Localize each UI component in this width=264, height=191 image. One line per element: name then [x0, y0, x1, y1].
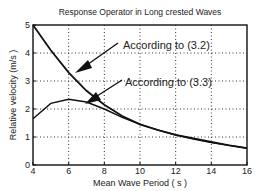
- y-tick-label: 5: [25, 20, 30, 30]
- chart-svg: Response Operator in Long crested Waves …: [0, 0, 264, 191]
- arrow-line-3-3: [94, 80, 122, 98]
- x-tick-label: 4: [30, 166, 35, 176]
- y-tick-labels: 012345: [25, 20, 36, 170]
- chart-container: Response Operator in Long crested Waves …: [0, 0, 264, 191]
- y-tick-label: 0: [25, 160, 30, 170]
- x-axis-label: Mean Wave Period ( s ): [93, 178, 187, 188]
- y-tick-label: 2: [25, 104, 30, 114]
- x-tick-label: 14: [206, 166, 216, 176]
- chart-title: Response Operator in Long crested Waves: [59, 7, 222, 17]
- arrow-head-3-2-icon: [75, 60, 92, 73]
- x-tick-label: 16: [242, 166, 252, 176]
- annotation-3-2: According to (3.2): [75, 39, 210, 73]
- y-axis-label: Relative velocity (m/s ): [8, 50, 18, 141]
- annotation-label-3-3: According to (3.3): [125, 76, 212, 88]
- x-tick-label: 8: [102, 166, 107, 176]
- annotation-3-3: According to (3.3): [85, 76, 212, 104]
- x-tick-labels: 46810121416: [30, 162, 252, 176]
- y-tick-label: 3: [25, 76, 30, 86]
- x-tick-label: 12: [171, 166, 181, 176]
- y-tick-label: 4: [25, 48, 30, 58]
- arrow-head-3-3-icon: [85, 92, 101, 104]
- x-tick-label: 6: [66, 166, 71, 176]
- x-tick-label: 10: [135, 166, 145, 176]
- y-tick-label: 1: [25, 132, 30, 142]
- annotation-label-3-2: According to (3.2): [123, 39, 210, 51]
